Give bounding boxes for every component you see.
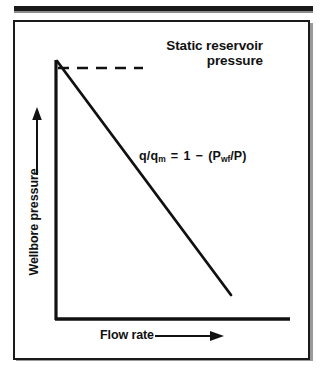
static-reservoir-pressure-label: Static reservoir pressure xyxy=(143,38,263,68)
x-axis-label: Flow rate xyxy=(100,328,154,342)
static-pressure-label-line2: pressure xyxy=(143,53,263,68)
figure-frame xyxy=(13,20,310,360)
page-top-rule-shadow xyxy=(14,11,313,13)
equation-lhs-subscript: m xyxy=(158,154,165,164)
equation-minus: − xyxy=(196,149,204,163)
equation-rhs-close: /P) xyxy=(230,149,247,163)
figure-frame-shadow-right xyxy=(310,23,313,361)
static-pressure-label-line1: Static reservoir xyxy=(143,38,263,53)
figure-root: Static reservoir pressure q/qm = 1 − (Pw… xyxy=(0,0,325,377)
y-axis-label: Wellbore pressure xyxy=(27,157,41,287)
equation-one: 1 xyxy=(183,149,190,163)
equation-lhs: q/q xyxy=(139,149,158,163)
equation-rhs-open: (P xyxy=(208,149,221,163)
equation-rhs-subscript: wf xyxy=(221,154,230,164)
ipr-equation-label: q/qm = 1 − (Pwf/P) xyxy=(139,149,247,163)
